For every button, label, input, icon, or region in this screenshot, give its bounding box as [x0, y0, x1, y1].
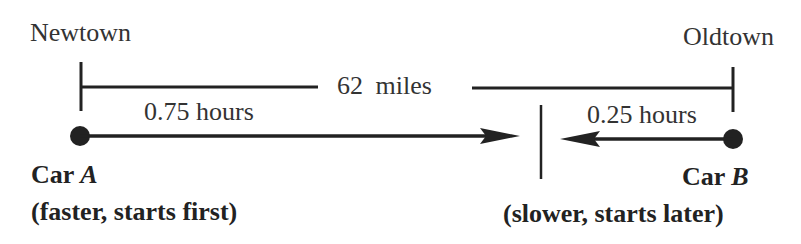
car-b-name-letter: B: [731, 162, 748, 191]
car-a-name: Car A: [31, 162, 98, 188]
newtown-label: Newtown: [30, 20, 131, 46]
car-b-arrowhead: [560, 131, 600, 147]
car-b-description: (slower, starts later): [503, 201, 724, 227]
car-a-time-label: 0.75 hours: [144, 99, 254, 125]
car-a-arrowhead: [480, 128, 520, 144]
distance-label: 62 miles: [337, 73, 432, 99]
car-b-name: Car B: [682, 164, 749, 190]
car-a-name-prefix: Car: [31, 160, 74, 189]
car-a-name-letter: A: [80, 160, 97, 189]
car-a-description: (faster, starts first): [31, 199, 237, 225]
distance-diagram: Newtown Oldtown 62 miles 0.75 hours 0.25…: [0, 0, 801, 244]
oldtown-label: Oldtown: [683, 24, 774, 50]
car-b-time-label: 0.25 hours: [587, 102, 697, 128]
car-b-name-prefix: Car: [682, 162, 725, 191]
